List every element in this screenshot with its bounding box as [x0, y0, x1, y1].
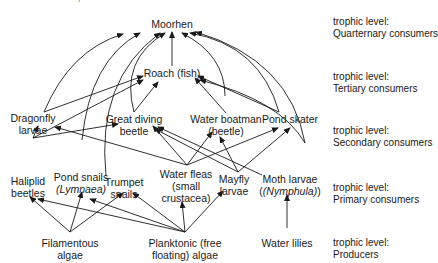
arrow-filamentous-pondsnails: [70, 192, 82, 232]
level-name: Secondary consumers: [333, 137, 433, 148]
node-label: Roach (fish): [144, 67, 201, 79]
node-label: beetles: [11, 187, 45, 199]
node-label: Moorhen: [151, 18, 192, 30]
level-label: trophic level:: [333, 182, 389, 193]
level-name: Producers: [333, 249, 379, 260]
node-label: Moth larvae: [263, 173, 318, 185]
node-water-lilies: Water lilies: [262, 237, 313, 249]
node-label: Trumpet: [105, 176, 144, 188]
level-tertiary: trophic level:Tertiary consumers: [333, 71, 417, 95]
level-name: Tertiary consumers: [333, 83, 417, 94]
node-label: Haliplid: [11, 175, 45, 187]
node-label: Water boatman: [190, 113, 261, 125]
node-great-diving-beetle: Great divingbeetle: [106, 113, 163, 137]
node-haliplid-beetles: Haliplidbeetles: [11, 175, 45, 199]
node-roach: Roach (fish): [144, 67, 201, 79]
node-label: (beetle): [208, 125, 244, 137]
node-pond-snails: Pond snails(Lymnaea): [54, 171, 108, 195]
arrow-waterboatman-moorhen: [182, 33, 225, 96]
node-label: Pond skater: [262, 113, 318, 125]
node-moth-larvae: Moth larvae((Nymphula)): [259, 173, 320, 197]
node-label: crustacea): [161, 192, 210, 204]
node-filamentous-algae: Filamentousalgae: [41, 237, 98, 261]
level-secondary: trophic level:Secondary consumers: [333, 125, 433, 149]
node-label: Pond snails: [54, 171, 108, 183]
node-label-italic: (Lymnaea): [56, 183, 106, 195]
arrow-pondskater-moorhen: [190, 33, 279, 112]
node-planktonic-algae: Planktonic (freefloating) algae: [149, 237, 222, 261]
node-label: floating) algae: [152, 249, 218, 261]
node-moorhen: Moorhen: [151, 18, 192, 30]
node-water-boatman: Water boatman(beetle): [190, 113, 261, 137]
level-label: trophic level:: [333, 237, 389, 248]
node-label: Planktonic (free: [149, 237, 222, 249]
arrow-mayfly-waterboatman: [220, 137, 238, 172]
level-label: trophic level:: [333, 71, 389, 82]
node-label: Great diving: [106, 113, 163, 125]
level-label: trophic level:: [333, 125, 389, 136]
node-label-italic: (Nymphula): [263, 185, 317, 197]
node-label: algae: [57, 249, 83, 261]
level-producers: trophic level:Producers: [333, 237, 389, 261]
node-label: larvae: [19, 124, 48, 136]
node-label: Filamentous: [41, 237, 98, 249]
node-pond-skater: Pond skater: [262, 113, 318, 125]
node-label: Dragonfly: [11, 112, 56, 124]
node-water-fleas: Water fleas(smallcrustacea): [160, 168, 213, 204]
arrow-dragonfly-moorhen: [44, 34, 123, 112]
level-quarternary: trophic level:Quarternary consumers: [333, 16, 438, 40]
level-name: Primary consumers: [333, 194, 419, 205]
level-primary: trophic level:Primary consumers: [333, 182, 419, 206]
node-label: (small: [172, 180, 200, 192]
node-dragonfly-larvae: Dragonflylarvae: [11, 112, 56, 136]
arrow-filamentous-haliplid: [30, 197, 70, 232]
node-label: snails: [111, 188, 138, 200]
level-label: trophic level:: [333, 16, 389, 27]
node-label: beetle: [120, 125, 149, 137]
node-label: Water lilies: [262, 237, 313, 249]
node-label: Mayfly: [219, 173, 249, 185]
arrow-planktonic-waterfleas: [182, 202, 185, 232]
node-label: larvae: [220, 185, 249, 197]
level-name: Quarternary consumers: [333, 28, 438, 39]
node-mayfly-larvae: Mayflylarvae: [219, 173, 249, 197]
node-label: Water fleas: [160, 168, 213, 180]
arrow-greatdiving-roach: [134, 82, 158, 112]
node-trumpet-snails: Trumpetsnails: [105, 176, 144, 200]
